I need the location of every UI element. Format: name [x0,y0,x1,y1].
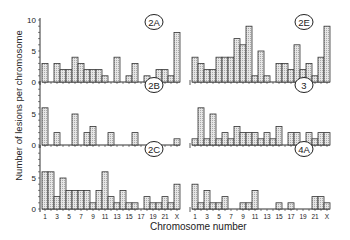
bar [126,76,132,82]
x-tick-label: 21 [311,213,319,220]
x-tick-label: X [175,213,180,220]
x-tick-label: X [325,213,330,220]
x-tick-label: 15 [275,213,283,220]
x-tick-label: 7 [79,213,83,220]
bar [288,203,294,209]
bar [102,76,108,82]
x-tick-label: 5 [217,213,221,220]
bar [132,203,138,209]
x-tick-label: 11 [252,213,259,220]
bar [216,57,222,82]
bar [198,203,204,209]
bar [168,76,174,82]
bar [276,126,282,145]
panel-2c: 052C13579111315171921X [32,142,180,221]
bar [252,133,258,145]
bar [114,57,120,82]
bar [246,26,252,82]
y-tick-label: 5 [32,110,37,119]
bar [102,172,108,209]
panel-4a: 4A13579111315171921X [190,142,330,221]
bar [294,45,300,82]
y-tick-label: 10 [27,16,36,25]
x-tick-label: 17 [287,213,295,220]
bar [258,139,264,145]
bar [204,70,210,82]
bar [132,63,138,82]
panel-2a: 05102A [27,15,180,88]
bar [48,172,54,209]
bar [312,76,318,82]
bar [318,197,324,209]
bar [174,184,180,209]
bar [210,70,216,82]
bar [324,133,330,145]
bar [78,190,84,209]
bar [222,57,228,82]
bar [54,63,60,82]
bar [216,203,222,209]
bar [144,197,150,209]
x-axis-label: Chromosome number [150,221,247,232]
x-tick-label: 19 [149,213,157,220]
x-tick-label: 5 [67,213,71,220]
bar [324,26,330,82]
x-tick-label: 7 [229,213,233,220]
bar [66,190,72,209]
x-tick-label: 17 [137,213,145,220]
bar [96,190,102,209]
panel-3: 3 [190,78,330,149]
bar [42,172,48,209]
bar [246,203,252,209]
bar [228,139,234,145]
bar [120,190,126,209]
x-tick-label: 9 [241,213,245,220]
bar [264,76,270,82]
bar [84,190,90,209]
bar [246,133,252,145]
bar [96,70,102,82]
x-tick-label: 1 [43,213,47,220]
bar [90,203,96,209]
x-tick-label: 15 [125,213,133,220]
bar [132,133,138,145]
y-tick-label: 5 [32,47,37,56]
bar [234,126,240,145]
bar [240,133,246,145]
panel-label: 2E [298,17,310,28]
x-tick-label: 13 [113,213,121,220]
bar [72,57,78,82]
x-tick-label: 11 [102,213,109,220]
bar [318,57,324,82]
panel-label: 3 [301,80,306,91]
y-axis-label: Number of lesions per chromosome [13,26,24,186]
y-tick-label: 0 [32,205,37,214]
bar [240,203,246,209]
bar [288,70,294,82]
bar [84,133,90,145]
bar [282,63,288,82]
bar [192,57,198,82]
bar [42,108,48,145]
x-tick-label: 3 [205,213,209,220]
bar [312,197,318,209]
bar [252,76,258,82]
bar [114,203,120,209]
x-tick-label: 13 [263,213,271,220]
bar [258,51,264,82]
bar [324,203,330,209]
bar [90,126,96,145]
panel-label: 2B [148,80,160,91]
bar [150,203,156,209]
bar [264,133,270,145]
panel-2e: 2E [190,15,330,86]
bar [222,133,228,145]
bar [42,63,48,82]
bar [54,133,60,145]
bar [318,133,324,145]
bar [162,197,168,209]
bar [54,197,60,209]
x-tick-label: 19 [299,213,307,220]
bar [60,70,66,82]
y-tick-label: 5 [32,174,37,183]
